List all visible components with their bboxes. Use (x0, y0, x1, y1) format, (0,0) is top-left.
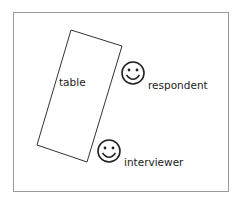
respondent-label: respondent (148, 80, 208, 91)
table-label: table (59, 77, 86, 88)
respondent-smiley-face-icon (122, 62, 144, 84)
diagram-canvas (0, 0, 241, 204)
interviewer-label: interviewer (124, 157, 183, 168)
interviewer-smiley-face-icon (98, 140, 120, 162)
table-shape (37, 30, 122, 162)
